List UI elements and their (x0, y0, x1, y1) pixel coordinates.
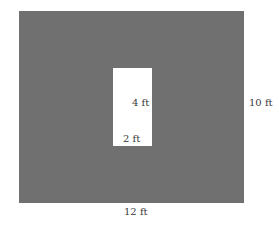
inner-height-label: 4 ft (132, 97, 149, 109)
outer-height-label: 10 ft (249, 97, 273, 109)
inner-width-label: 2 ft (123, 133, 140, 145)
outer-width-label: 12 ft (124, 206, 148, 218)
